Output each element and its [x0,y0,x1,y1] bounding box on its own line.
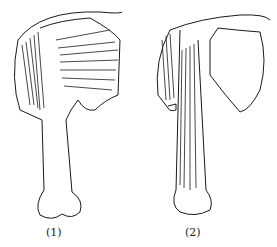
figure-1-drawing [0,0,140,225]
figure-2-drawing [140,0,277,225]
figure-1-label: (1) [46,226,62,239]
figure-2-label: (2) [185,226,201,239]
